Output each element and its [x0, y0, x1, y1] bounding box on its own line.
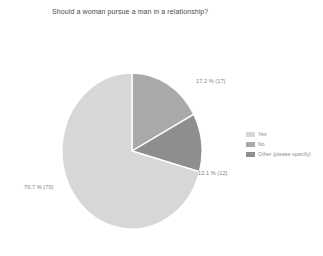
chart-title: Should a woman pursue a man in a relatio…	[52, 8, 208, 15]
legend-label-yes: Yes	[258, 131, 267, 137]
data-label-no: 17.2 % (17)	[196, 78, 226, 84]
legend-swatch-yes	[246, 132, 255, 137]
legend-swatch-other	[246, 152, 255, 157]
legend-label-other: Other (please specify)	[258, 151, 311, 157]
legend-swatch-no	[246, 142, 255, 147]
pie-graphic	[62, 73, 202, 229]
pie-chart: Should a woman pursue a man in a relatio…	[0, 0, 323, 256]
pie-svg	[62, 73, 202, 229]
legend-label-no: No	[258, 141, 265, 147]
chart-legend: Yes No Other (please specify)	[246, 131, 311, 157]
data-label-yes: 70.7 % (70)	[24, 184, 54, 190]
legend-item-other[interactable]: Other (please specify)	[246, 151, 311, 157]
data-label-other: 12.1 % (12)	[198, 170, 228, 176]
legend-item-no[interactable]: No	[246, 141, 311, 147]
legend-item-yes[interactable]: Yes	[246, 131, 311, 137]
